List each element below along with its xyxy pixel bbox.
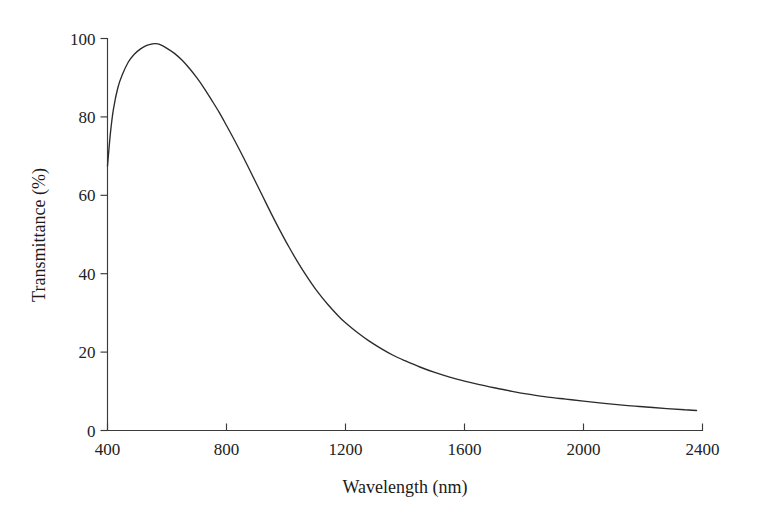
- data-curve-transmittance: [108, 44, 697, 411]
- y-tick-label-0: 0: [87, 422, 96, 441]
- transmittance-spectrum-figure: 020406080100 4008001200160020002400 Wave…: [0, 0, 758, 523]
- plot-canvas: 020406080100 4008001200160020002400 Wave…: [0, 0, 758, 523]
- x-axis-title: Wavelength (nm): [342, 477, 467, 498]
- x-axis-ticks: [108, 424, 703, 431]
- x-tick-label-2000: 2000: [567, 440, 601, 459]
- x-tick-label-1600: 1600: [448, 440, 482, 459]
- y-axis-tick-labels: 020406080100: [70, 30, 96, 441]
- y-axis-title: Transmittance (%): [29, 168, 50, 302]
- y-tick-label-100: 100: [70, 30, 96, 49]
- y-axis-ticks: [101, 39, 108, 431]
- y-tick-label-80: 80: [79, 108, 96, 127]
- x-tick-label-800: 800: [214, 440, 240, 459]
- x-tick-label-1200: 1200: [329, 440, 363, 459]
- x-tick-label-2400: 2400: [686, 440, 720, 459]
- data-series-group: [108, 44, 697, 411]
- y-tick-label-20: 20: [79, 343, 96, 362]
- x-tick-label-400: 400: [95, 440, 121, 459]
- x-axis-tick-labels: 4008001200160020002400: [95, 440, 720, 459]
- y-tick-label-60: 60: [79, 186, 96, 205]
- y-tick-label-40: 40: [79, 265, 96, 284]
